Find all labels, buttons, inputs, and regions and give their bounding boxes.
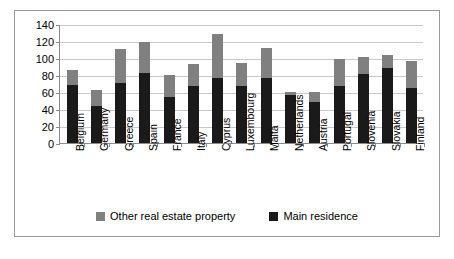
chart-legend: Other real estate propertyMain residence bbox=[15, 210, 439, 222]
x-axis-label-cyprus: Cyprus bbox=[221, 118, 232, 151]
x-axis-label-france: France bbox=[172, 118, 183, 151]
bar-segment-other-real-estate-property bbox=[164, 75, 175, 97]
bar-segment-other-real-estate-property bbox=[91, 90, 102, 105]
x-axis-label-malta: Malta bbox=[269, 125, 280, 151]
y-axis-tick-label: 120 bbox=[36, 37, 54, 48]
y-axis-tick-label: 60 bbox=[42, 88, 54, 99]
x-axis-label-luxembourg: Luxembourg bbox=[245, 93, 256, 151]
bar-segment-other-real-estate-property bbox=[115, 49, 126, 83]
x-axis-label-germany: Germany bbox=[99, 108, 110, 151]
x-axis-label-portugal: Portugal bbox=[342, 112, 353, 151]
y-axis-tick-label: 0 bbox=[48, 139, 54, 150]
y-axis-tick bbox=[56, 25, 60, 26]
legend-entry: Main residence bbox=[269, 210, 358, 222]
y-axis-tick bbox=[56, 144, 60, 145]
x-axis-label-italy: Italy bbox=[196, 132, 207, 151]
x-axis-label-slovenia: Slovenia bbox=[366, 111, 377, 151]
legend-label: Other real estate property bbox=[110, 210, 235, 222]
legend-swatch-icon bbox=[96, 212, 105, 221]
x-axis-label-spain: Spain bbox=[148, 124, 159, 151]
bar-segment-other-real-estate-property bbox=[382, 55, 393, 69]
bar-segment-other-real-estate-property bbox=[261, 48, 272, 79]
bar-segment-other-real-estate-property bbox=[406, 61, 417, 87]
y-axis-tick-label: 100 bbox=[36, 54, 54, 65]
bar-segment-other-real-estate-property bbox=[139, 42, 150, 73]
y-axis-tick-label: 80 bbox=[42, 71, 54, 82]
y-axis-tick-label: 140 bbox=[36, 20, 54, 31]
x-axis-label-austria: Austria bbox=[318, 118, 329, 151]
x-axis-label-slovakia: Slovakia bbox=[391, 111, 402, 151]
legend-entry: Other real estate property bbox=[96, 210, 235, 222]
y-axis-tick-label: 20 bbox=[42, 122, 54, 133]
bar-segment-other-real-estate-property bbox=[358, 57, 369, 74]
y-axis-tick bbox=[56, 59, 60, 60]
bar-segment-other-real-estate-property bbox=[236, 63, 247, 86]
bar-segment-other-real-estate-property bbox=[67, 70, 78, 85]
chart-figure: 020406080100120140 BelgiumGermanyGreeceS… bbox=[14, 10, 440, 237]
y-axis-tick-label: 40 bbox=[42, 105, 54, 116]
x-axis-label-belgium: Belgium bbox=[75, 113, 86, 151]
bar-segment-other-real-estate-property bbox=[309, 92, 320, 102]
x-axis-label-greece: Greece bbox=[124, 117, 135, 151]
legend-swatch-icon bbox=[269, 212, 278, 221]
gridline bbox=[60, 25, 423, 26]
y-axis-tick bbox=[56, 42, 60, 43]
bar-segment-other-real-estate-property bbox=[212, 34, 223, 78]
x-axis-label-finland: Finland bbox=[415, 117, 426, 151]
bar-segment-other-real-estate-property bbox=[188, 64, 199, 86]
gridline bbox=[60, 42, 423, 43]
bar-segment-other-real-estate-property bbox=[334, 59, 345, 86]
x-axis-label-netherlands: Netherlands bbox=[294, 94, 305, 151]
legend-label: Main residence bbox=[283, 210, 358, 222]
